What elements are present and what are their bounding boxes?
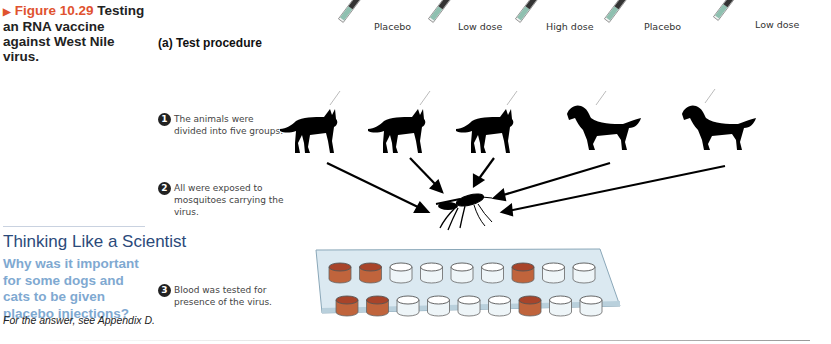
syringe-icon-3 [507,0,560,105]
mosquito-icon [436,192,492,230]
well-empty [421,263,443,283]
syringe-icon-5 [705,0,758,103]
well-empty [573,263,595,283]
well-empty [489,296,511,316]
syringe-icon-2 [420,0,473,105]
well-empty [580,296,602,316]
well-empty [482,263,504,283]
well-empty [550,296,572,316]
well-empty [451,263,473,283]
well-filled [336,296,358,316]
well-filled [519,296,541,316]
dog-silhouette-icon-2 [682,105,756,150]
cat-silhouette-icon-3 [456,109,513,153]
well-filled [329,263,351,283]
bottom-rule [30,340,810,341]
well-empty [458,296,480,316]
well-filled [512,263,534,283]
well-empty [428,296,450,316]
syringe-icon-1 [330,0,383,105]
cat-silhouette-icon-2 [368,109,425,153]
well-empty [390,263,412,283]
well-empty [397,296,419,316]
syringe-icon-4 [596,0,649,105]
cat-silhouette-icon-1 [280,109,337,153]
illustration [0,0,831,344]
dog-silhouette-icon-1 [567,105,641,150]
well-filled [367,296,389,316]
well-empty [543,263,565,283]
well-filled [360,263,382,283]
